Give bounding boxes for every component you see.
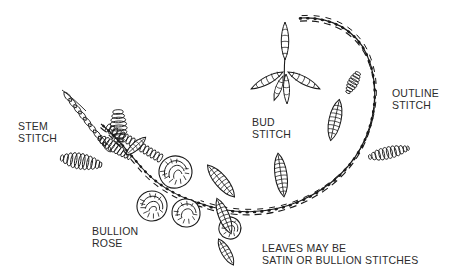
leaves-caption-label: LEAVES MAY BE SATIN OR BULLION STITCHES: [262, 243, 419, 266]
bud-stitch: [249, 22, 321, 104]
stem-stitch-label: STEM STITCH: [18, 121, 57, 144]
stitch-diagram-page: STEM STITCH BULLION ROSE BUD STITCH OUTL…: [0, 0, 462, 275]
bullion-rose-label: BULLION ROSE: [92, 226, 138, 249]
bullion-knot-far-right: [367, 142, 410, 163]
leaf: [325, 98, 345, 142]
bullion-knot-left-lower: [59, 150, 103, 173]
outline-stitch-label: OUTLINE STITCH: [392, 88, 439, 111]
bud-stitch-label: BUD STITCH: [252, 117, 291, 140]
bullion-knot-right-small: [343, 70, 363, 96]
leaf: [272, 152, 290, 197]
leaf: [215, 237, 238, 267]
bullion-rose: [134, 188, 170, 224]
leaf: [203, 161, 239, 201]
embroidery-illustration: [0, 0, 462, 275]
